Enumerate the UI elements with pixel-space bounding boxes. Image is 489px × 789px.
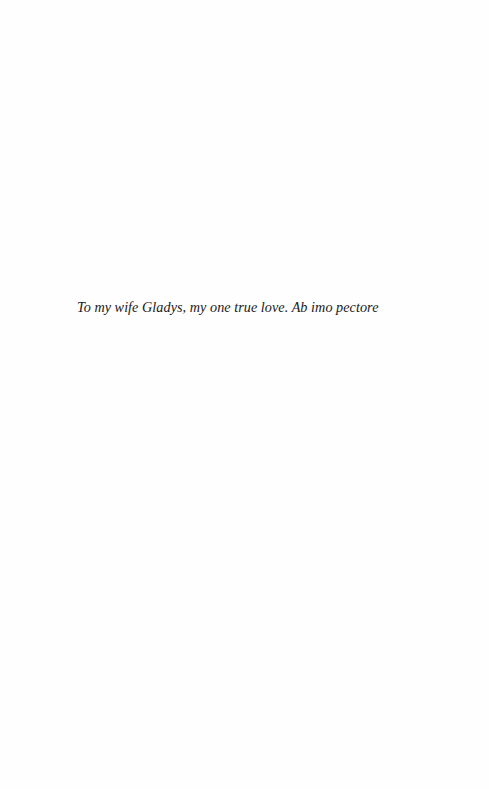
document-page: To my wife Gladys, my one true love. Ab … — [0, 0, 489, 789]
dedication-text: To my wife Gladys, my one true love. Ab … — [77, 298, 377, 316]
